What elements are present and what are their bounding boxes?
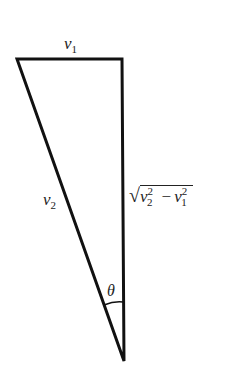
term2-sub: 1 bbox=[181, 196, 187, 208]
triangle-diagram bbox=[0, 0, 227, 387]
radical-sign: √ bbox=[129, 184, 140, 206]
label-v1: v1 bbox=[64, 35, 77, 52]
v1-subscript: 1 bbox=[72, 43, 78, 55]
v2-subscript: 2 bbox=[51, 199, 57, 211]
radicand: v22−v21 bbox=[140, 185, 193, 206]
minus-operator: − bbox=[162, 187, 172, 206]
angle-arc bbox=[104, 302, 123, 305]
label-vertical-side: √v22−v21 bbox=[129, 184, 193, 207]
label-theta: θ bbox=[107, 283, 115, 299]
triangle-shape bbox=[17, 59, 124, 361]
v1-base: v bbox=[64, 34, 72, 53]
v2-base: v bbox=[43, 190, 51, 209]
term1-sub: 2 bbox=[147, 196, 153, 208]
label-v2: v2 bbox=[43, 191, 56, 208]
